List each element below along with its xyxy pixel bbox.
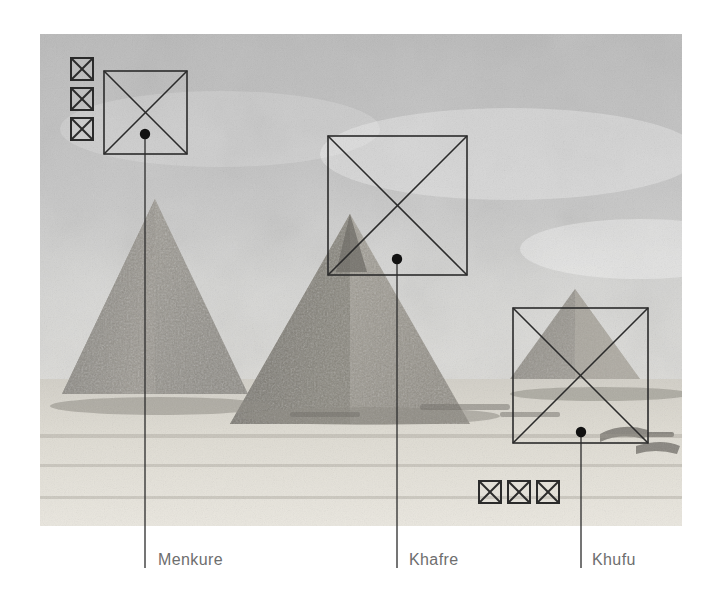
photograph-content (40, 34, 682, 526)
giza-pyramids-photograph (40, 34, 682, 526)
label-khafre: Khafre (409, 552, 459, 568)
label-khufu: Khufu (592, 552, 636, 568)
figure-canvas: Menkure Khafre Khufu (0, 0, 719, 606)
label-menkure: Menkure (158, 552, 223, 568)
